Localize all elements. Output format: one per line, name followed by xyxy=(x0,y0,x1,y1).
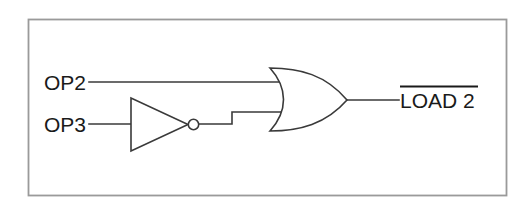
input-label-op2: OP2 xyxy=(44,71,86,94)
output-label-load2: LOAD 2 xyxy=(400,89,475,112)
inverter-triangle xyxy=(131,98,188,151)
circuit-diagram-page: OP2 OP3 LOAD 2 xyxy=(0,0,522,207)
logic-circuit-svg: OP2 OP3 LOAD 2 xyxy=(0,0,522,207)
wire-inverter-to-or-gate xyxy=(199,112,285,124)
inverter-bubble-icon xyxy=(188,119,198,129)
or-gate-body xyxy=(270,68,347,131)
input-label-op3: OP3 xyxy=(44,113,86,136)
